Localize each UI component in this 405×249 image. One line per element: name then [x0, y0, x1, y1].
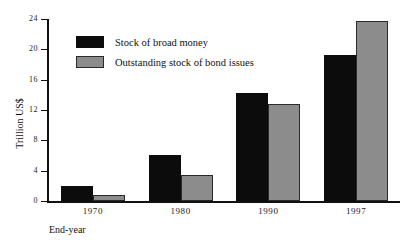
y-tick-mark	[41, 80, 47, 81]
legend-label: Outstanding stock of bond issues	[115, 57, 254, 68]
bar	[356, 21, 388, 201]
x-tick-label: 1990	[233, 206, 303, 216]
y-tick-mark	[41, 110, 47, 111]
bar	[324, 55, 356, 201]
y-tick-mark	[41, 140, 47, 141]
legend-swatch	[76, 36, 104, 48]
bar	[181, 175, 213, 201]
y-tick-label: 12	[8, 106, 38, 114]
y-axis-title: Trillion US$	[14, 69, 25, 179]
y-tick-label: 0	[8, 197, 38, 205]
y-tick-mark	[41, 171, 47, 172]
chart-legend: Stock of broad moneyOutstanding stock of…	[76, 32, 254, 72]
bar-chart: Trillion US$ 04812162024 197019801990199…	[0, 0, 405, 249]
y-tick-label: 16	[8, 76, 38, 84]
y-tick-label: 8	[8, 136, 38, 144]
x-tick-label: 1997	[321, 206, 391, 216]
bar	[149, 155, 181, 201]
legend-label: Stock of broad money	[115, 37, 208, 48]
y-tick-mark	[41, 49, 47, 50]
legend-item: Stock of broad money	[76, 32, 254, 52]
y-tick-label: 20	[8, 45, 38, 53]
legend-item: Outstanding stock of bond issues	[76, 52, 254, 72]
bar	[93, 195, 125, 201]
x-axis-line	[47, 201, 400, 203]
x-tick-label: 1980	[146, 206, 216, 216]
x-tick-label: 1970	[58, 206, 128, 216]
bar	[236, 93, 268, 201]
y-tick-label: 4	[8, 167, 38, 175]
y-tick-mark	[41, 19, 47, 20]
y-tick-label: 24	[8, 15, 38, 23]
legend-swatch	[76, 56, 104, 68]
bar-group	[312, 19, 400, 201]
bar	[268, 104, 300, 201]
bar	[61, 186, 93, 201]
x-axis-title: End-year	[49, 224, 86, 235]
